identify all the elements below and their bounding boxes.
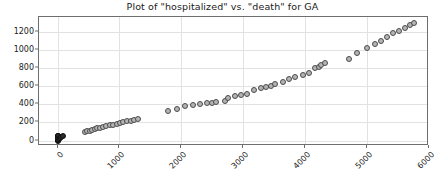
y-axis-tick-label: 600 bbox=[19, 81, 34, 90]
gridline-horizontal bbox=[39, 122, 427, 123]
y-axis-tick-mark bbox=[35, 30, 38, 31]
y-axis-tick-label: 1000 bbox=[14, 44, 34, 53]
gridline-vertical bbox=[58, 17, 59, 144]
gridline-horizontal bbox=[39, 32, 427, 33]
data-point bbox=[390, 30, 396, 36]
x-axis-tick-label: 6000 bbox=[386, 150, 436, 187]
x-axis-tick-mark bbox=[242, 145, 243, 148]
y-axis-tick-label: 800 bbox=[19, 62, 34, 71]
data-point bbox=[286, 76, 292, 82]
y-axis-tick-label: 400 bbox=[19, 99, 34, 108]
scatter-plot-figure: Plot of "hospitalized" vs. "death" for G… bbox=[0, 0, 445, 187]
data-point bbox=[322, 60, 328, 66]
data-point bbox=[60, 133, 66, 139]
data-point bbox=[292, 74, 298, 80]
y-axis-tick-label: 1200 bbox=[14, 26, 34, 35]
data-point bbox=[280, 79, 286, 85]
data-point bbox=[135, 116, 141, 122]
data-point bbox=[396, 28, 402, 34]
gridline-vertical bbox=[305, 17, 306, 144]
data-point bbox=[197, 101, 203, 107]
data-point bbox=[372, 41, 378, 47]
x-axis-tick-label: 4000 bbox=[262, 150, 312, 187]
y-axis-tick-mark bbox=[35, 121, 38, 122]
x-axis-tick-mark bbox=[180, 145, 181, 148]
data-point bbox=[346, 56, 352, 62]
data-point bbox=[251, 87, 257, 93]
x-axis-tick-mark bbox=[366, 145, 367, 148]
x-axis-tick-label: 0 bbox=[15, 150, 65, 187]
data-point bbox=[225, 95, 231, 101]
x-axis-tick-label: 1000 bbox=[77, 150, 127, 187]
gridline-horizontal bbox=[39, 86, 427, 87]
x-axis-tick-label: 5000 bbox=[324, 150, 374, 187]
y-axis-tick-label: 200 bbox=[19, 117, 34, 126]
x-axis-tick-mark bbox=[118, 145, 119, 148]
y-axis-tick-mark bbox=[35, 139, 38, 140]
data-point bbox=[384, 34, 390, 40]
y-axis-tick-label: 0 bbox=[29, 135, 34, 144]
data-point bbox=[165, 108, 171, 114]
gridline-vertical bbox=[181, 17, 182, 144]
data-point bbox=[174, 106, 180, 112]
y-axis-tick-mark bbox=[35, 85, 38, 86]
gridline-horizontal bbox=[39, 141, 427, 142]
data-point bbox=[238, 92, 244, 98]
data-point bbox=[306, 70, 312, 76]
chart-title: Plot of "hospitalized" vs. "death" for G… bbox=[0, 1, 445, 12]
x-axis-tick-label: 2000 bbox=[139, 150, 189, 187]
y-axis-tick-mark bbox=[35, 103, 38, 104]
gridline-horizontal bbox=[39, 104, 427, 105]
y-axis-tick-mark bbox=[35, 66, 38, 67]
gridline-horizontal bbox=[39, 68, 427, 69]
data-point bbox=[300, 72, 306, 78]
gridline-vertical bbox=[243, 17, 244, 144]
gridline-vertical bbox=[367, 17, 368, 144]
data-point bbox=[378, 38, 384, 44]
data-point bbox=[364, 45, 370, 51]
data-point bbox=[244, 91, 250, 97]
data-point bbox=[354, 50, 360, 56]
x-axis-tick-label: 3000 bbox=[200, 150, 250, 187]
data-point bbox=[190, 102, 196, 108]
x-axis-tick-mark bbox=[304, 145, 305, 148]
plot-area bbox=[38, 16, 428, 145]
y-axis-tick-mark bbox=[35, 48, 38, 49]
data-point bbox=[182, 103, 188, 109]
data-point bbox=[411, 20, 417, 26]
x-axis-tick-mark bbox=[57, 145, 58, 148]
data-point bbox=[232, 93, 238, 99]
x-axis-tick-mark bbox=[428, 145, 429, 148]
